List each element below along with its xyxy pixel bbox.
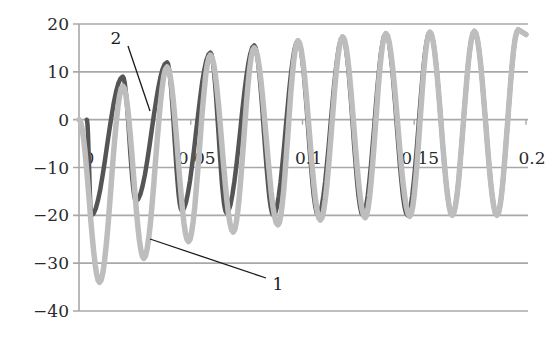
curve-1-label: 1 [273,274,284,294]
y-tick-label: −30 [33,253,69,273]
y-tick-label: 10 [47,62,69,82]
y-tick-label: 20 [47,14,69,34]
line-chart: 20100−10−20−30−40 00.050.10.150.2 21 [0,0,559,338]
x-tick-label: 0.2 [518,148,545,168]
y-axis: 20100−10−20−30−40 [33,14,69,321]
leader-line-1 [150,239,266,278]
y-tick-label: 0 [58,110,69,130]
curve-2-label: 2 [111,28,122,48]
leader-line-2 [128,46,150,111]
y-tick-label: −10 [33,158,69,178]
y-tick-label: −20 [33,205,69,225]
y-tick-label: −40 [33,301,69,321]
